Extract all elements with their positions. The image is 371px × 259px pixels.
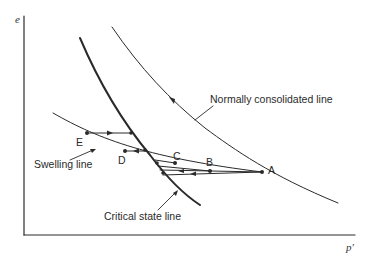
csl-d-marker: [143, 148, 147, 152]
csl-curve: [80, 38, 200, 205]
csl-e-marker: [129, 131, 133, 135]
swelling-label: Swelling line: [34, 159, 92, 170]
point-c-label: C: [173, 151, 181, 162]
y-axis-label: e: [15, 14, 20, 25]
ncl-curve: [112, 27, 338, 203]
csl-a-marker: [161, 171, 165, 175]
ncl-arrow-icon: [169, 97, 175, 104]
diagram-canvas: [0, 0, 371, 259]
point-a-label: A: [268, 165, 275, 176]
point-d-label: D: [118, 155, 126, 166]
csl-label: Critical state line: [104, 211, 181, 222]
e-path-arrow-icon: [107, 131, 113, 136]
point-b-marker: [208, 169, 212, 173]
point-a-marker: [260, 170, 264, 174]
d-path-arrow-icon: [133, 149, 139, 154]
csl-c-marker: [155, 161, 159, 165]
point-b-label: B: [206, 157, 213, 168]
a-path-arrow-icon: [178, 169, 184, 173]
a-lower-arrow-icon: [190, 172, 196, 177]
csl-leader: [158, 192, 176, 210]
ncl-label: Normally consolidated line: [210, 94, 333, 105]
csl-leader-arrow-icon: [173, 190, 178, 196]
ncl-leader: [195, 106, 213, 120]
point-e-label: E: [76, 137, 83, 148]
point-e-marker: [85, 131, 89, 135]
point-d-marker: [123, 149, 127, 153]
x-axis-label: p′: [346, 242, 354, 253]
path-a-lower: [163, 172, 262, 175]
